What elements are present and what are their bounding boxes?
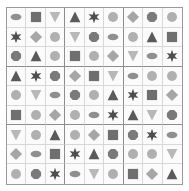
diamond-icon	[105, 48, 121, 64]
grid-cell-r6-c5[interactable]	[85, 106, 104, 126]
grid-cell-r3-c4[interactable]	[65, 47, 84, 67]
triangle-up-icon	[67, 9, 83, 25]
grid-cell-r5-c2[interactable]	[26, 86, 45, 106]
grid-cell-r4-c1[interactable]	[7, 67, 26, 87]
grid-cell-r9-c8[interactable]	[143, 164, 162, 184]
grid-cell-r2-c1[interactable]	[7, 28, 26, 48]
grid-cell-r1-c8[interactable]	[143, 8, 162, 28]
star-icon	[28, 68, 44, 84]
grid-cell-r1-c2[interactable]	[26, 8, 45, 28]
grid-cell-r6-c7[interactable]	[124, 106, 143, 126]
grid-cell-r2-c7[interactable]	[124, 28, 143, 48]
grid-cell-r5-c9[interactable]	[163, 86, 182, 106]
star-icon	[144, 127, 160, 143]
diamond-icon	[164, 87, 180, 103]
grid-cell-r2-c5[interactable]	[85, 28, 104, 48]
grid-cell-r4-c4[interactable]	[65, 67, 84, 87]
grid-cell-r8-c2[interactable]	[26, 145, 45, 165]
grid-cell-r6-c1[interactable]	[7, 106, 26, 126]
grid-cell-r3-c7[interactable]	[124, 47, 143, 67]
grid-cell-r7-c5[interactable]	[85, 125, 104, 145]
grid-cell-r7-c6[interactable]	[104, 125, 123, 145]
grid-cell-r3-c1[interactable]	[7, 47, 26, 67]
grid-cell-r4-c2[interactable]	[26, 67, 45, 87]
grid-cell-r2-c6[interactable]	[104, 28, 123, 48]
triangle-up-icon	[125, 107, 141, 123]
star-icon	[67, 146, 83, 162]
grid-cell-r7-c4[interactable]	[65, 125, 84, 145]
grid-cell-r2-c4[interactable]	[65, 28, 84, 48]
grid-cell-r1-c5[interactable]	[85, 8, 104, 28]
grid-cell-r3-c5[interactable]	[85, 47, 104, 67]
grid-cell-r1-c7[interactable]	[124, 8, 143, 28]
grid-cell-r3-c6[interactable]	[104, 47, 123, 67]
grid-cell-r1-c9[interactable]	[163, 8, 182, 28]
grid-cell-r8-c5[interactable]	[85, 145, 104, 165]
grid-cell-r9-c3[interactable]	[46, 164, 65, 184]
grid-cell-r5-c8[interactable]	[143, 86, 162, 106]
ellipse-icon	[47, 87, 63, 103]
grid-cell-r9-c4[interactable]	[65, 164, 84, 184]
grid-cell-r4-c7[interactable]	[124, 67, 143, 87]
grid-cell-r6-c2[interactable]	[26, 106, 45, 126]
grid-cell-r6-c4[interactable]	[65, 106, 84, 126]
grid-cell-r5-c3[interactable]	[46, 86, 65, 106]
grid-cell-r6-c6[interactable]	[104, 106, 123, 126]
grid-cell-r7-c8[interactable]	[143, 125, 162, 145]
grid-cell-r5-c7[interactable]	[124, 86, 143, 106]
grid-cell-r9-c9[interactable]	[163, 164, 182, 184]
grid-cell-r8-c3[interactable]	[46, 145, 65, 165]
grid-cell-r3-c8[interactable]	[143, 47, 162, 67]
grid-cell-r7-c3[interactable]	[46, 125, 65, 145]
grid-cell-r9-c7[interactable]	[124, 164, 143, 184]
circle-icon	[8, 166, 24, 182]
grid-cell-r1-c4[interactable]	[65, 8, 84, 28]
grid-cell-r4-c6[interactable]	[104, 67, 123, 87]
circle-icon	[144, 68, 160, 84]
grid-cell-r6-c3[interactable]	[46, 106, 65, 126]
grid-cell-r4-c9[interactable]	[163, 67, 182, 87]
grid-cell-r2-c2[interactable]	[26, 28, 45, 48]
ellipse-icon	[8, 9, 24, 25]
grid-cell-r8-c6[interactable]	[104, 145, 123, 165]
grid-cell-r7-c7[interactable]	[124, 125, 143, 145]
grid-cell-r9-c5[interactable]	[85, 164, 104, 184]
grid-cell-r4-c8[interactable]	[143, 67, 162, 87]
grid-cell-r7-c9[interactable]	[163, 125, 182, 145]
grid-cell-r9-c1[interactable]	[7, 164, 26, 184]
triangle-down-icon	[86, 166, 102, 182]
grid-cell-r5-c6[interactable]	[104, 86, 123, 106]
grid-cell-r1-c1[interactable]	[7, 8, 26, 28]
grid-cell-r8-c1[interactable]	[7, 145, 26, 165]
grid-cell-r4-c5[interactable]	[85, 67, 104, 87]
grid-cell-r8-c4[interactable]	[65, 145, 84, 165]
grid-cell-r2-c3[interactable]	[46, 28, 65, 48]
grid-cell-r7-c1[interactable]	[7, 125, 26, 145]
grid-cell-r5-c5[interactable]	[85, 86, 104, 106]
circle-icon	[8, 87, 24, 103]
ellipse-icon	[28, 146, 44, 162]
grid-cell-r2-c9[interactable]	[163, 28, 182, 48]
grid-cell-r1-c3[interactable]	[46, 8, 65, 28]
grid-cell-r3-c3[interactable]	[46, 47, 65, 67]
circle-icon	[47, 29, 63, 45]
grid-cell-r3-c9[interactable]	[163, 47, 182, 67]
grid-cell-r8-c8[interactable]	[143, 145, 162, 165]
grid-cell-r9-c6[interactable]	[104, 164, 123, 184]
grid-cell-r8-c9[interactable]	[163, 145, 182, 165]
octagon-icon	[67, 87, 83, 103]
octagon-icon	[144, 9, 160, 25]
grid-cell-r6-c9[interactable]	[163, 106, 182, 126]
octagon-icon	[164, 107, 180, 123]
grid-cell-r6-c8[interactable]	[143, 106, 162, 126]
grid-cell-r5-c1[interactable]	[7, 86, 26, 106]
grid-cell-r4-c3[interactable]	[46, 67, 65, 87]
grid-cell-r3-c2[interactable]	[26, 47, 45, 67]
triangle-up-icon	[47, 127, 63, 143]
grid-cell-r1-c6[interactable]	[104, 8, 123, 28]
grid-cell-r9-c2[interactable]	[26, 164, 45, 184]
grid-cell-r8-c7[interactable]	[124, 145, 143, 165]
grid-cell-r5-c4[interactable]	[65, 86, 84, 106]
grid-cell-r7-c2[interactable]	[26, 125, 45, 145]
grid-cell-r2-c8[interactable]	[143, 28, 162, 48]
